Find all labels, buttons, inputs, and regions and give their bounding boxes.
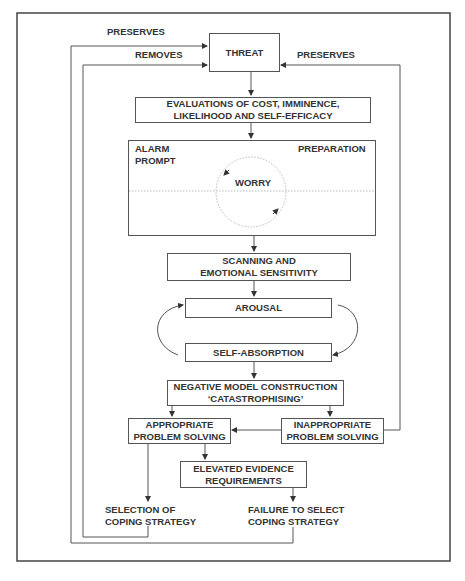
node-negative-model: NEGATIVE MODEL CONSTRUCTION ‘CATASTROPHI… [167, 380, 344, 406]
node-arousal-label: AROUSAL [235, 302, 282, 314]
edge-label-preserves-right: PRESERVES [297, 49, 355, 61]
node-failure-line1: FAILURE TO SELECT [248, 504, 344, 516]
node-inappropriate-line2: PROBLEM SOLVING [286, 431, 378, 443]
node-scanning: SCANNING AND EMOTIONAL SENSITIVITY [167, 253, 351, 281]
node-threat-label: THREAT [226, 47, 264, 59]
node-selection-line1: SELECTION OF [105, 504, 175, 516]
node-threat: THREAT [209, 33, 280, 72]
node-inappropriate-line1: INAPPROPRIATE [294, 419, 371, 431]
node-appropriate-line1: APPROPRIATE [146, 419, 214, 431]
edge-label-preserves-left: PRESERVES [107, 26, 165, 38]
node-scanning-line2: EMOTIONAL SENSITIVITY [200, 267, 318, 279]
node-worry: WORRY [235, 177, 271, 189]
node-self-absorption-label: SELF-ABSORPTION [213, 347, 304, 359]
node-alarm-line1: ALARM [135, 143, 169, 155]
node-appropriate-line2: PROBLEM SOLVING [133, 431, 225, 443]
edge-label-removes: REMOVES [135, 49, 183, 61]
node-elevated: ELEVATED EVIDENCE REQUIREMENTS [180, 461, 307, 488]
node-selection-line2: COPING STRATEGY [105, 516, 196, 528]
node-appropriate: APPROPRIATE PROBLEM SOLVING [128, 418, 231, 444]
node-elevated-line2: REQUIREMENTS [205, 475, 282, 487]
node-arousal: AROUSAL [185, 298, 332, 318]
node-self-absorption: SELF-ABSORPTION [185, 343, 332, 362]
node-failure-line2: COPING STRATEGY [248, 516, 339, 528]
diagram-canvas: PRESERVES REMOVES PRESERVES THREAT EVALU… [0, 0, 465, 581]
node-scanning-line1: SCANNING AND [222, 255, 296, 267]
node-inappropriate: INAPPROPRIATE PROBLEM SOLVING [281, 418, 384, 444]
node-alarm-line2: PROMPT [135, 155, 176, 167]
connector-lines [0, 0, 465, 581]
node-evaluations-line1: EVALUATIONS OF COST, IMMINENCE, [167, 98, 340, 110]
node-evaluations-line2: LIKELIHOOD AND SELF-EFFICACY [173, 110, 332, 122]
node-elevated-line1: ELEVATED EVIDENCE [193, 463, 293, 475]
node-preparation: PREPARATION [298, 143, 366, 155]
node-negative-model-line2: ‘CATASTROPHISING’ [208, 393, 304, 405]
node-evaluations: EVALUATIONS OF COST, IMMINENCE, LIKELIHO… [135, 97, 371, 123]
node-negative-model-line1: NEGATIVE MODEL CONSTRUCTION [174, 381, 338, 393]
